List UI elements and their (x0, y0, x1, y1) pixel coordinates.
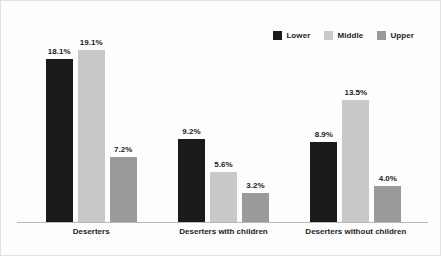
bar-value-label: 3.2% (246, 182, 264, 190)
bar-rect (46, 59, 73, 222)
bar-rect (310, 142, 337, 222)
bar-group-deserters-without-children: 8.9% 13.5% 4.0% (290, 23, 422, 222)
bar-rect (178, 139, 205, 222)
x-axis-labels: Deserters Deserters with children Desert… (25, 227, 422, 236)
bar-deserters-with-children-upper[interactable]: 3.2% (242, 23, 269, 222)
bar-rect (342, 100, 369, 222)
axis-label-deserters-with-children: Deserters with children (157, 227, 289, 236)
axis-label-deserters-without-children: Deserters without children (290, 227, 422, 236)
bar-deserters-with-children-lower[interactable]: 9.2% (178, 23, 205, 222)
bar-group-deserters: 18.1% 19.1% 7.2% (25, 23, 157, 222)
bar-value-label: 9.2% (182, 128, 200, 136)
bar-value-label: 4.0% (379, 175, 397, 183)
bar-rect (110, 157, 137, 222)
bar-rect (78, 50, 105, 222)
bar-value-label: 13.5% (344, 89, 367, 97)
axis-label-deserters: Deserters (25, 227, 157, 236)
bar-value-label: 18.1% (48, 48, 71, 56)
bar-deserters-without-children-middle[interactable]: 13.5% (342, 23, 369, 222)
x-axis-line (17, 222, 428, 223)
bar-value-label: 8.9% (315, 131, 333, 139)
bar-deserters-middle[interactable]: 19.1% (78, 23, 105, 222)
plot-area: 18.1% 19.1% 7.2% 9.2% 5.6% 3.2% (25, 23, 422, 222)
bar-value-label: 5.6% (214, 161, 232, 169)
bar-deserters-without-children-lower[interactable]: 8.9% (310, 23, 337, 222)
bar-chart: Lower Middle Upper 18.1% 19.1% 7.2% (0, 0, 441, 256)
bar-value-label: 7.2% (114, 146, 132, 154)
bar-deserters-upper[interactable]: 7.2% (110, 23, 137, 222)
bar-group-deserters-with-children: 9.2% 5.6% 3.2% (157, 23, 289, 222)
bar-deserters-lower[interactable]: 18.1% (46, 23, 73, 222)
bar-rect (210, 172, 237, 223)
bar-value-label: 19.1% (80, 39, 103, 47)
bar-deserters-with-children-middle[interactable]: 5.6% (210, 23, 237, 222)
bar-deserters-without-children-upper[interactable]: 4.0% (374, 23, 401, 222)
bar-rect (374, 186, 401, 222)
bar-rect (242, 193, 269, 222)
